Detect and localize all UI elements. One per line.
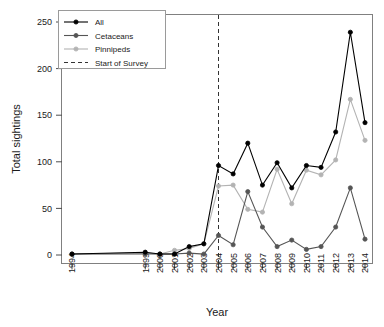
- chart-canvas: 050100150200250 199419992000200120022003…: [0, 0, 384, 327]
- legend-marker-icon: [74, 47, 78, 51]
- legend-marker-icon: [74, 33, 78, 37]
- data-point: [216, 163, 220, 167]
- x-tick-label: 2009: [287, 253, 297, 273]
- data-point: [275, 245, 279, 249]
- y-tick-label: 100: [37, 157, 52, 167]
- data-point: [348, 30, 352, 34]
- legend-label: All: [95, 18, 104, 27]
- data-point: [158, 252, 162, 256]
- data-point: [260, 183, 264, 187]
- x-tick-label: 2005: [229, 253, 239, 273]
- data-point: [260, 210, 264, 214]
- y-tick-label: 250: [37, 17, 52, 27]
- x-tick-label: 2008: [273, 253, 283, 273]
- data-point: [231, 243, 235, 247]
- data-point: [172, 252, 176, 256]
- x-tick-label: 2002: [185, 253, 195, 273]
- data-point: [334, 158, 338, 162]
- data-point: [202, 252, 206, 256]
- data-point: [216, 184, 220, 188]
- data-point: [143, 250, 147, 254]
- data-point: [187, 251, 191, 255]
- y-axis-title: Total sightings: [10, 104, 22, 174]
- x-tick-label: 2013: [346, 253, 356, 273]
- y-tick-label: 50: [42, 204, 52, 214]
- data-point: [334, 130, 338, 134]
- data-point: [275, 167, 279, 171]
- data-point: [290, 238, 294, 242]
- data-point: [363, 237, 367, 241]
- x-tick-label: 2012: [331, 253, 341, 273]
- data-point: [246, 207, 250, 211]
- data-point: [231, 183, 235, 187]
- data-point: [363, 138, 367, 142]
- x-axis-title: Year: [206, 306, 229, 318]
- data-point: [304, 247, 308, 251]
- data-point: [246, 141, 250, 145]
- chart-background: [0, 0, 384, 327]
- chart-legend: AllCetaceansPinnipedsStart of Survey: [59, 11, 166, 69]
- data-point: [202, 242, 206, 246]
- legend-marker-icon: [74, 20, 78, 24]
- x-tick-label: 2014: [360, 253, 370, 273]
- data-point: [334, 225, 338, 229]
- sightings-line-chart: 050100150200250 199419992000200120022003…: [0, 0, 384, 327]
- data-point: [231, 172, 235, 176]
- x-tick-label: 2007: [258, 253, 268, 273]
- data-point: [187, 245, 191, 249]
- data-point: [290, 186, 294, 190]
- x-tick-label: 2011: [316, 254, 326, 273]
- data-point: [319, 245, 323, 249]
- y-tick-label: 200: [37, 64, 52, 74]
- y-tick-label: 0: [47, 250, 52, 260]
- data-point: [290, 202, 294, 206]
- data-point: [70, 252, 74, 256]
- legend-label: Pinnipeds: [95, 45, 130, 54]
- data-point: [304, 163, 308, 167]
- data-point: [216, 233, 220, 237]
- legend-label: Start of Survey: [95, 59, 148, 68]
- data-point: [319, 173, 323, 177]
- data-point: [246, 190, 250, 194]
- data-point: [319, 165, 323, 169]
- data-point: [260, 225, 264, 229]
- legend-label: Cetaceans: [95, 32, 133, 41]
- data-point: [275, 161, 279, 165]
- data-point: [348, 186, 352, 190]
- data-point: [348, 97, 352, 101]
- x-tick-label: 2006: [243, 253, 253, 273]
- y-tick-label: 150: [37, 110, 52, 120]
- x-tick-label: 2010: [302, 253, 312, 273]
- data-point: [363, 121, 367, 125]
